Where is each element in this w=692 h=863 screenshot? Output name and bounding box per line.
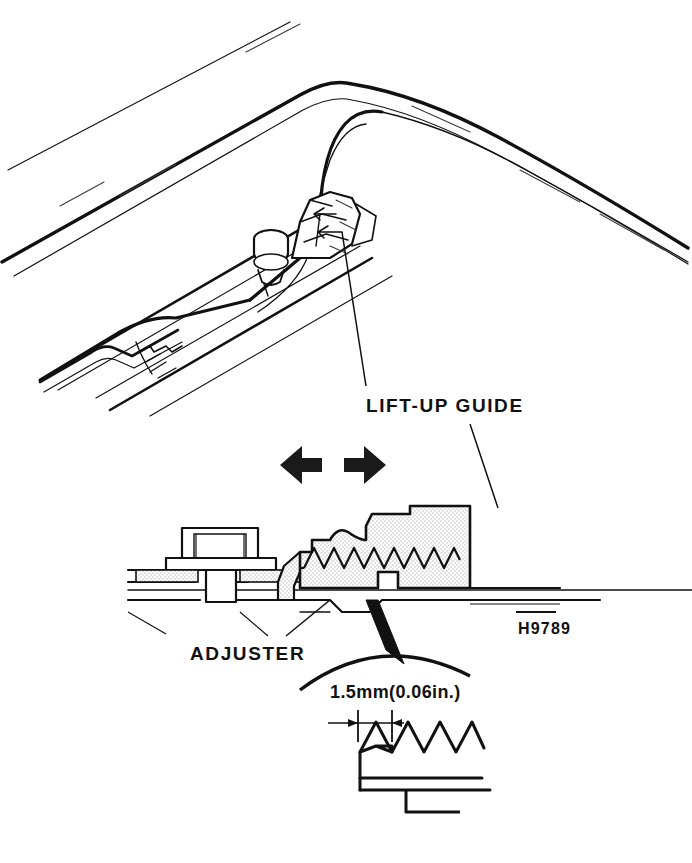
figure-root: LIFT-UP GUIDE — [0, 0, 692, 863]
label-figure-code: H9789 — [518, 620, 571, 637]
technical-diagram: LIFT-UP GUIDE — [0, 0, 692, 863]
label-adjuster: ADJUSTER — [190, 643, 305, 664]
label-lift-up-guide: LIFT-UP GUIDE — [366, 395, 524, 416]
label-dimension: 1.5mm(0.06in.) — [330, 682, 461, 702]
canvas-background — [0, 0, 692, 863]
